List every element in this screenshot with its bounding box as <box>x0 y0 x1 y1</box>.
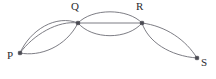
multigraph-diagram: PQRS <box>0 0 216 79</box>
edge-r-s <box>142 23 197 58</box>
edges-group <box>20 12 197 58</box>
vertex-label-s: S <box>201 57 207 68</box>
edge-q-r <box>78 23 142 36</box>
edge-r-s <box>142 23 197 58</box>
vertex-s <box>195 56 199 60</box>
edge-p-q <box>20 23 78 53</box>
vertex-label-r: R <box>136 1 143 12</box>
vertices-group <box>18 21 199 60</box>
edge-p-q <box>20 20 78 53</box>
edge-q-r <box>78 12 142 23</box>
vertex-label-q: Q <box>71 1 79 12</box>
vertex-q <box>76 21 80 25</box>
vertex-r <box>140 21 144 25</box>
vertex-label-p: P <box>7 50 13 61</box>
vertex-p <box>18 51 22 55</box>
graph-canvas <box>0 0 216 79</box>
